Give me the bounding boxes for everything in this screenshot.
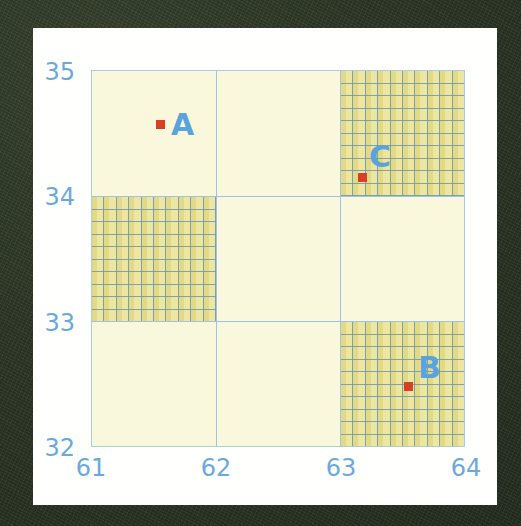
x-axis-tick-63: 63 [311,456,371,480]
data-marker-B[interactable] [404,382,413,391]
x-axis-tick-62: 62 [186,456,246,480]
grid-line-x-63 [340,70,341,447]
grid-cell-62-34[interactable] [216,70,341,196]
plot-area: A B C [91,70,465,447]
data-label-B: B [418,353,441,383]
grid-cell-62-33[interactable] [216,196,341,322]
grid-cell-63-33[interactable] [340,196,465,322]
grid-cell-61-34[interactable] [91,70,216,196]
grid-cell-63-32[interactable] [340,321,465,447]
data-marker-C[interactable] [358,173,367,182]
data-label-C: C [369,142,391,172]
grid-cell-62-32[interactable] [216,321,341,447]
x-axis-tick-64: 64 [436,456,496,480]
figure-card: 35 34 33 32 61 62 63 64 A B C [33,28,497,505]
x-axis-tick-61: 61 [61,456,121,480]
y-axis-tick-34: 34 [29,185,75,209]
grid-cell-61-32[interactable] [91,321,216,447]
y-axis-tick-35: 35 [29,60,75,84]
grid-cell-61-33[interactable] [91,196,216,322]
data-label-A: A [171,110,194,140]
y-axis-tick-33: 33 [29,311,75,335]
grid-line-y-33 [91,321,465,322]
data-marker-A[interactable] [156,120,165,129]
grid-line-x-62 [216,70,217,447]
grid-line-y-34 [91,196,465,197]
